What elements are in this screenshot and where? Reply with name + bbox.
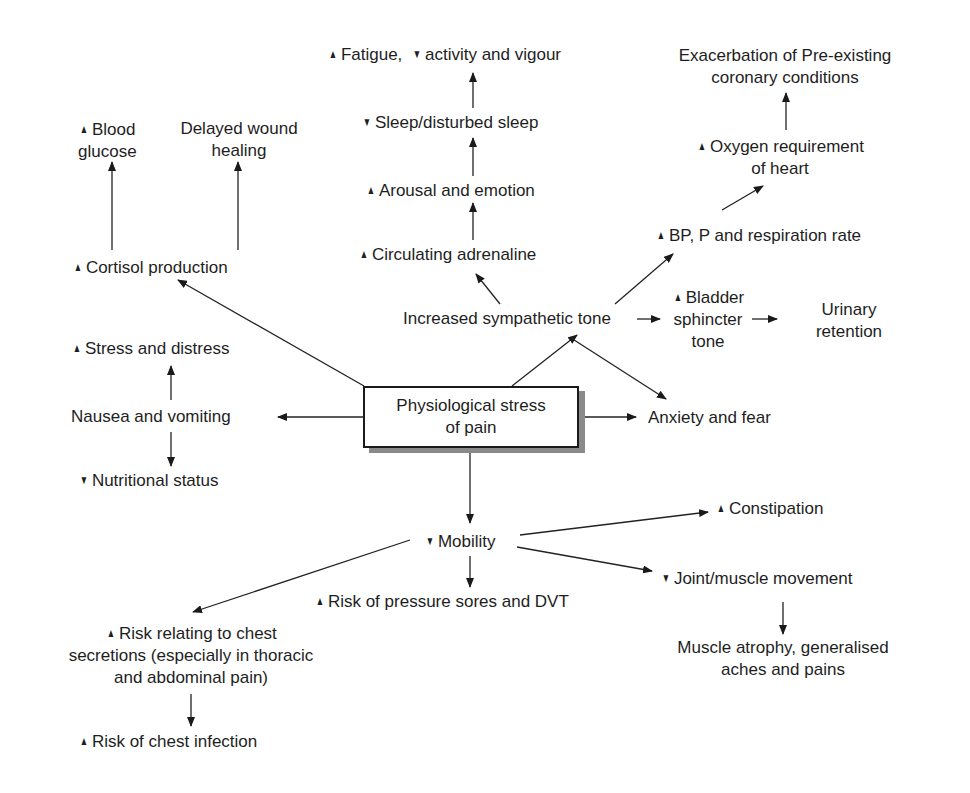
node-delayed-wound-healing: Delayed wound healing (174, 118, 304, 162)
node-constipation: ▲Constipation (715, 497, 823, 520)
node-arousal: ▲Arousal and emotion (365, 179, 535, 202)
arrow-mobility-to-joint (517, 547, 652, 571)
node-circulating-adrenaline: ▲Circulating adrenaline (358, 243, 536, 266)
node-mobility: ▼Mobility (424, 530, 496, 553)
increase-arrow-icon: ▲ (717, 497, 725, 519)
center-line-2: of pain (365, 417, 577, 439)
arrow-center-to-sympathetic (512, 335, 577, 386)
node-urinary-retention: Urinary retention (778, 299, 920, 343)
arrow-mobility-to-constipation (520, 512, 708, 535)
decrease-arrow-icon: ▼ (80, 469, 88, 491)
node-bp-respiration: ▲BP, P and respiration rate (655, 224, 861, 247)
arrow-sympathetic-to-anxiety (571, 338, 666, 399)
increase-arrow-icon: ▲ (329, 43, 337, 65)
central-node-physiological-stress: Physiological stress of pain (363, 386, 579, 448)
node-cortisol-production: ▲Cortisol production (72, 256, 228, 279)
node-oxygen-requirement: ▲Oxygen requirement of heart (675, 135, 885, 180)
increase-arrow-icon: ▲ (657, 224, 665, 246)
decrease-arrow-icon: ▼ (426, 530, 434, 552)
decrease-arrow-icon: ▼ (363, 111, 371, 133)
increase-arrow-icon: ▲ (73, 337, 81, 359)
arrow-sympathetic-to-adrenaline (476, 274, 500, 304)
node-chest-secretions-risk: ▲Risk relating to chest secretions (espe… (38, 622, 344, 689)
node-increased-sympathetic-tone: Increased sympathetic tone (403, 308, 611, 330)
increase-arrow-icon: ▲ (316, 590, 324, 612)
increase-arrow-icon: ▲ (74, 256, 82, 278)
node-bladder-sphincter-tone: ▲Bladder sphincter tone (662, 286, 754, 353)
node-sleep: ▼Sleep/disturbed sleep (361, 111, 538, 134)
increase-arrow-icon: ▲ (107, 622, 115, 644)
node-chest-infection-risk: ▲Risk of chest infection (78, 730, 257, 753)
node-blood-glucose: ▲Blood glucose (78, 118, 137, 163)
arrow-center-to-cortisol (178, 280, 364, 386)
node-stress-distress: ▲Stress and distress (71, 337, 229, 360)
increase-arrow-icon: ▲ (367, 179, 375, 201)
node-nutritional-status: ▼Nutritional status (78, 469, 219, 492)
increase-arrow-icon: ▲ (80, 118, 88, 140)
node-fatigue: ▲Fatigue, ▼activity and vigour (327, 43, 561, 66)
increase-arrow-icon: ▲ (360, 243, 368, 265)
node-anxiety-fear: Anxiety and fear (648, 407, 771, 429)
arrow-bp-to-oxygen (722, 186, 763, 210)
decrease-arrow-icon: ▼ (662, 567, 670, 589)
node-joint-muscle-movement: ▼Joint/muscle movement (660, 567, 852, 590)
node-exacerbation-coronary: Exacerbation of Pre-existing coronary co… (650, 45, 920, 89)
node-muscle-atrophy: Muscle atrophy, generalised aches and pa… (648, 637, 918, 681)
center-line-1: Physiological stress (365, 395, 577, 417)
increase-arrow-icon: ▲ (698, 135, 706, 157)
node-nausea-vomiting: Nausea and vomiting (71, 406, 231, 428)
increase-arrow-icon: ▲ (674, 286, 682, 308)
decrease-arrow-icon: ▼ (413, 43, 421, 65)
node-pressure-sores-dvt: ▲Risk of pressure sores and DVT (314, 590, 569, 613)
increase-arrow-icon: ▲ (80, 730, 88, 752)
